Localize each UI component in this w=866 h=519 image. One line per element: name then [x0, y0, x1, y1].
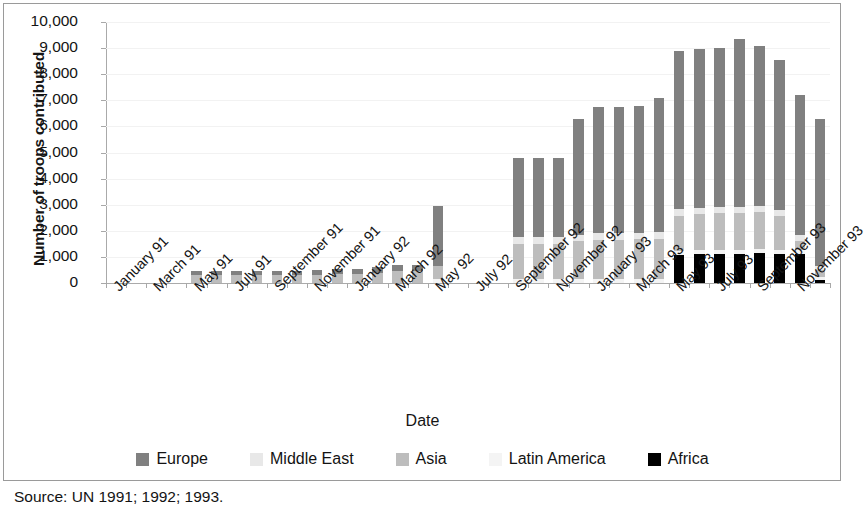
- bar-segment-europe: [714, 48, 724, 207]
- bar-segment-europe: [593, 107, 603, 234]
- source-note: Source: UN 1991; 1992; 1993.: [14, 488, 223, 506]
- bar-segment-asia: [774, 216, 784, 250]
- y-axis-tick-label: 6,000: [39, 117, 78, 133]
- bar-segment-europe: [553, 158, 563, 238]
- y-axis-tick-label: 4,000: [39, 170, 78, 186]
- bar-segment-europe: [815, 119, 825, 267]
- bar-segment-europe: [694, 49, 704, 207]
- legend-item[interactable]: Asia: [396, 450, 447, 468]
- legend-item[interactable]: Middle East: [250, 450, 354, 468]
- y-axis-tick-label: 10,000: [31, 13, 78, 29]
- legend-label: Africa: [668, 450, 709, 468]
- gridline: [106, 22, 830, 23]
- bar-segment-europe: [573, 119, 583, 235]
- y-axis-tick: [101, 22, 106, 23]
- bar-segment-asia: [714, 213, 724, 250]
- y-axis-tick: [101, 205, 106, 206]
- y-axis-tick-label: 8,000: [39, 65, 78, 81]
- bar-segment-europe: [795, 95, 805, 235]
- bar[interactable]: [694, 49, 704, 283]
- y-axis-tick: [101, 74, 106, 75]
- x-axis-tick-labels: January 91March 91May 91July 91September…: [106, 283, 830, 403]
- y-axis-tick: [101, 100, 106, 101]
- y-axis-tick-label: 5,000: [39, 144, 78, 160]
- legend-swatch-icon: [489, 453, 502, 466]
- bar-segment-asia: [734, 213, 744, 250]
- bar-segment-europe: [513, 158, 523, 238]
- chart-legend: EuropeMiddle EastAsiaLatin AmericaAfrica: [0, 450, 845, 468]
- legend-item[interactable]: Africa: [648, 450, 709, 468]
- legend-swatch-icon: [250, 453, 263, 466]
- legend-label: Asia: [416, 450, 447, 468]
- bar[interactable]: [714, 48, 724, 283]
- y-axis-tick: [101, 153, 106, 154]
- bar-segment-europe: [774, 60, 784, 210]
- bar[interactable]: [734, 39, 744, 283]
- y-axis-tick-label: 1,000: [39, 248, 78, 264]
- y-axis-tick: [101, 231, 106, 232]
- y-axis-tick-label: 0: [69, 274, 78, 290]
- y-axis-tick-label: 2,000: [39, 222, 78, 238]
- y-axis-tick: [101, 179, 106, 180]
- bar-segment-europe: [754, 46, 764, 206]
- legend-item[interactable]: Europe: [136, 450, 208, 468]
- y-axis-tick: [101, 126, 106, 127]
- bar-segment-asia: [694, 214, 704, 250]
- legend-swatch-icon: [136, 453, 149, 466]
- y-axis-tick-label: 9,000: [39, 39, 78, 55]
- bar[interactable]: [513, 158, 523, 283]
- bar[interactable]: [754, 46, 764, 284]
- bar-segment-europe: [533, 158, 543, 238]
- bar-segment-europe: [614, 107, 624, 234]
- y-axis-tick: [101, 257, 106, 258]
- x-axis-title: Date: [0, 412, 845, 430]
- x-axis-tick: [830, 283, 831, 288]
- bar-segment-europe: [634, 106, 644, 233]
- legend-swatch-icon: [396, 453, 409, 466]
- y-axis-tick-label: 3,000: [39, 196, 78, 212]
- legend-label: Latin America: [509, 450, 606, 468]
- y-axis-tick: [101, 48, 106, 49]
- bar[interactable]: [553, 158, 563, 283]
- legend-label: Middle East: [270, 450, 354, 468]
- bar-segment-europe: [734, 39, 744, 207]
- bar-segment-europe: [654, 98, 664, 233]
- legend-label: Europe: [156, 450, 208, 468]
- y-axis-tick-label: 7,000: [39, 91, 78, 107]
- legend-swatch-icon: [648, 453, 661, 466]
- bar-segment-europe: [674, 51, 684, 210]
- bar[interactable]: [774, 60, 784, 283]
- plot-area: 01,0002,0003,0004,0005,0006,0007,0008,00…: [106, 22, 830, 283]
- legend-item[interactable]: Latin America: [489, 450, 606, 468]
- bar-segment-asia: [754, 212, 764, 249]
